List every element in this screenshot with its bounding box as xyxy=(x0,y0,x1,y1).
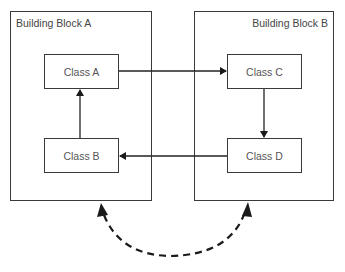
dashed-dependency-arc xyxy=(104,212,245,256)
arc-arrowhead-right xyxy=(242,202,252,217)
connectors-layer xyxy=(0,0,345,272)
arc-arrowhead-left xyxy=(97,203,108,217)
